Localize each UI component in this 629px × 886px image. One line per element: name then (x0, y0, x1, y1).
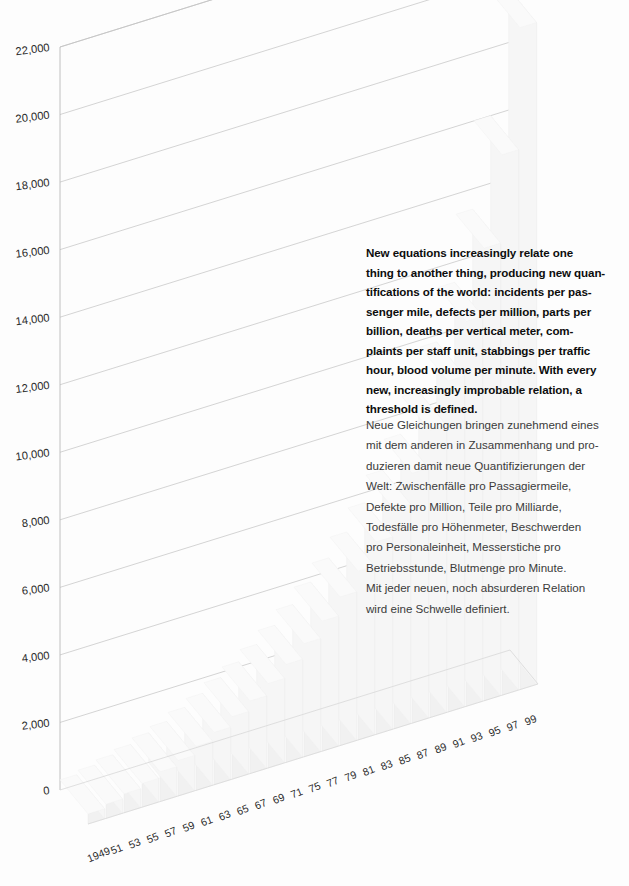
y-axis-tick-label: 8,000 (21, 514, 50, 529)
annotation-german-line: wird eine Schwelle definiert. (366, 599, 594, 619)
x-axis-tick-label: 65 (235, 802, 251, 818)
annotation-german-line: mit dem anderen in Zusammenhang und pro- (366, 435, 594, 455)
annotation-english-line: billion, deaths per vertical meter, com- (366, 321, 594, 341)
y-axis-tick-label: 16,000 (15, 244, 50, 260)
annotation-english-line: New equations increasingly relate one (366, 243, 594, 263)
y-axis-tick-label: 12,000 (15, 379, 50, 395)
annotation-english-line: hour, blood volume per minute. With ever… (366, 360, 594, 380)
x-axis-tick-label: 57 (163, 824, 179, 840)
annotation-english: New equations increasingly relate onethi… (366, 243, 594, 419)
annotation-german-line: pro Personaleinheit, Messerstiche pro (366, 537, 594, 557)
annotation-german-line: Neue Gleichungen bringen zunehmend eines (366, 415, 594, 435)
x-axis-tick-label: 63 (217, 807, 233, 823)
annotation-german-line: Todesfälle pro Höhenmeter, Beschwerden (366, 517, 594, 537)
annotation-german-line: duzieren damit neue Quantifizierungen de… (366, 456, 594, 476)
annotation-english-line: senger mile, defects per million, parts … (366, 302, 594, 322)
y-axis-tick-label: 0 (43, 784, 51, 797)
x-axis-tick-label: 67 (253, 796, 269, 812)
x-axis-tick-label: 71 (289, 785, 305, 801)
y-axis-tick-label: 18,000 (15, 176, 50, 192)
x-axis-tick-label: 53 (127, 835, 143, 851)
x-axis-tick-label: 85 (397, 751, 413, 767)
annotation-english-line: thing to another thing, producing new qu… (366, 263, 594, 283)
x-axis-tick-label: 79 (343, 768, 359, 784)
y-axis-labels: 02,0004,0006,0008,00010,00012,00014,0001… (15, 41, 50, 797)
x-axis-tick-label: 55 (145, 830, 161, 846)
annotation-english-line: tifications of the world: incidents per … (366, 282, 594, 302)
y-axis-tick-label: 6,000 (21, 581, 50, 596)
x-axis-tick-label: 83 (379, 757, 395, 773)
annotation-german-line: Welt: Zwischenfälle pro Passagiermeile, (366, 476, 594, 496)
annotation-english-line: new, increasingly improbable relation, a (366, 380, 594, 400)
gridline (60, 110, 510, 250)
annotation-german-line: Betriebsstunde, Blutmenge pro Minute. (366, 558, 594, 578)
x-axis-tick-label: 89 (433, 740, 449, 756)
x-axis-tick-label: 75 (307, 779, 323, 795)
annotation-german-line: Defekte pro Million, Teile pro Milliarde… (366, 497, 594, 517)
y-axis-tick-label: 4,000 (21, 649, 50, 664)
x-axis-tick-label: 81 (361, 762, 377, 778)
x-axis-tick-label: 95 (487, 723, 503, 739)
x-axis-tick-label: 91 (451, 734, 467, 750)
x-axis-tick-label: 87 (415, 746, 431, 762)
x-axis-tick-label: 69 (271, 790, 287, 806)
x-axis-tick-label: 77 (325, 774, 341, 790)
y-axis-tick-label: 14,000 (15, 311, 50, 327)
x-axis-tick-label: 93 (469, 729, 485, 745)
y-axis-tick-label: 10,000 (15, 446, 50, 462)
y-axis-tick-label: 2,000 (21, 717, 50, 732)
annotation-german-line: Mit jeder neuen, noch absurderen Relatio… (366, 578, 594, 598)
gridline (60, 42, 510, 182)
x-axis-tick-label: 61 (199, 813, 215, 829)
x-axis-tick-label: 97 (505, 718, 521, 734)
annotation-english-line: plaints per staff unit, stabbings per tr… (366, 341, 594, 361)
y-axis-tick-label: 20,000 (15, 109, 50, 125)
back-wall-top-edge (60, 0, 510, 47)
annotation-german: Neue Gleichungen bringen zunehmend eines… (366, 415, 594, 619)
y-axis-tick-label: 22,000 (15, 41, 50, 57)
x-axis-tick-label: 59 (181, 818, 197, 834)
gridline (60, 0, 510, 47)
x-axis-tick-label: 1949 (85, 844, 111, 864)
x-axis-tick-label: 99 (523, 712, 539, 728)
gridline (60, 0, 510, 115)
chart-page: 02,0004,0006,0008,00010,00012,00014,0001… (0, 0, 629, 886)
